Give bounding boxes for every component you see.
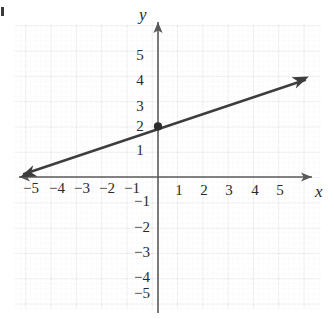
grid-layer [15,25,321,310]
x-tick-label-minus-5: −5 [18,181,44,196]
grid-rect [15,25,321,310]
x-tick-label-2: 2 [195,183,213,198]
y-tick-label-2: 2 [131,119,149,134]
y-tick-label-4: 4 [131,73,149,88]
y-tick-label-5: 5 [131,48,149,63]
y-tick-label-3: 3 [131,99,149,114]
x-tick-label-minus-2: −2 [94,181,120,196]
x-axis-label: x [315,183,323,200]
x-tick-label-minus-1: −1 [119,181,145,196]
y-tick-label-minus-1: −1 [124,194,150,209]
x-tick-label-5: 5 [271,183,289,198]
y-axis-label: y [139,6,147,23]
x-tick-label-minus-4: −4 [44,181,70,196]
x-tick-label-minus-3: −3 [69,181,95,196]
x-tick-label-4: 4 [246,183,264,198]
y-tick-label-minus-2: −2 [124,220,150,235]
y-tick-label-minus-3: −3 [124,245,150,260]
y-tick-label-minus-4: −4 [124,270,150,285]
x-tick-label-3: 3 [220,183,238,198]
graph-canvas [0,0,334,319]
coordinate-plane-figure: 5 4 3 2 1 −1 −2 −3 −4 −5 −5 −4 −3 −2 −1 … [0,0,334,319]
y-tick-label-minus-5: −5 [124,286,150,301]
x-tick-label-1: 1 [170,183,188,198]
y-intercept-point [154,122,162,130]
y-tick-label-1: 1 [131,143,149,158]
